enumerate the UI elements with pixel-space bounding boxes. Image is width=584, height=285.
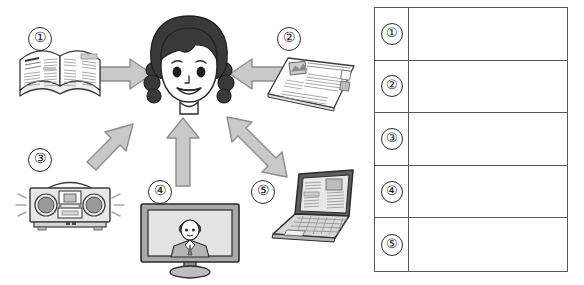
table-row: ⑤ — [375, 218, 567, 271]
table-row: ① — [375, 8, 567, 61]
arrow-radio-to-girl — [85, 116, 143, 174]
worksheet-page: ① ② — [0, 0, 584, 285]
table-row-answer-cell[interactable] — [409, 218, 567, 271]
newspaper-illustration — [262, 50, 358, 116]
table-row-number: ⑤ — [381, 234, 403, 256]
arrow-tv-to-girl — [165, 116, 201, 188]
table-row: ② — [375, 61, 567, 114]
magazine-illustration — [16, 44, 106, 106]
television-illustration — [138, 202, 242, 280]
table-row-answer-cell[interactable] — [409, 113, 567, 165]
label-number-2: ② — [277, 27, 301, 51]
table-row: ④ — [375, 166, 567, 219]
laptop-illustration — [265, 168, 361, 248]
answer-table: ① ② ③ ④ ⑤ — [374, 7, 568, 272]
radio-illustration — [14, 172, 126, 238]
table-row-number: ① — [381, 23, 403, 45]
table-row-answer-cell[interactable] — [409, 8, 567, 60]
table-row-number-cell: ④ — [375, 166, 409, 218]
table-row-answer-cell[interactable] — [409, 61, 567, 113]
table-row-number-cell: ⑤ — [375, 218, 409, 271]
table-row-number: ③ — [381, 128, 403, 150]
table-row: ③ — [375, 113, 567, 166]
table-row-number-cell: ③ — [375, 113, 409, 165]
table-row-number-cell: ② — [375, 61, 409, 113]
label-number-4: ④ — [148, 180, 172, 204]
label-number-5: ⑤ — [251, 180, 275, 204]
girl-illustration — [133, 12, 245, 122]
table-row-number: ④ — [381, 181, 403, 203]
table-row-answer-cell[interactable] — [409, 166, 567, 218]
label-number-3: ③ — [28, 148, 52, 172]
table-row-number-cell: ① — [375, 8, 409, 60]
label-number-1: ① — [28, 27, 52, 51]
table-row-number: ② — [381, 75, 403, 97]
